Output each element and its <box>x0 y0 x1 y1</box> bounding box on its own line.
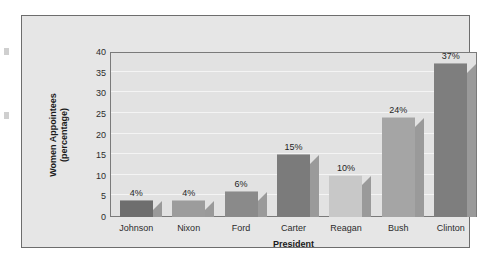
y-axis-tick-label: 5 <box>101 191 106 202</box>
bar-shadow <box>362 176 371 217</box>
bar-value-label: 4% <box>112 188 161 199</box>
bar-shadow <box>310 155 319 217</box>
bar-value-label: 15% <box>269 142 318 153</box>
y-axis-tick-label: 20 <box>96 130 106 141</box>
bar-value-label: 24% <box>374 105 423 116</box>
scan-speck <box>4 48 9 55</box>
y-axis-tick-label: 25 <box>96 109 106 120</box>
bar-clinton[interactable] <box>434 63 467 217</box>
scan-edge-artifact <box>0 30 16 150</box>
x-axis-tick-label: Carter <box>267 222 319 234</box>
y-axis-title: Women Appointees (percentage) <box>48 68 66 202</box>
bar-group[interactable]: 37% <box>434 52 467 217</box>
bar-group[interactable]: 6% <box>225 52 258 217</box>
x-axis-tick-label: Bush <box>372 222 424 234</box>
x-axis-tick-label: Nixon <box>162 222 214 234</box>
y-axis-tick-label: 35 <box>96 68 106 79</box>
bar-group[interactable]: 15% <box>277 52 310 217</box>
x-axis-tick-label: Clinton <box>425 222 477 234</box>
y-axis-tick-label: 15 <box>96 150 106 161</box>
bar-shadow <box>153 201 162 218</box>
bar-value-label: 4% <box>164 188 213 199</box>
bar-shadow <box>205 201 214 218</box>
bar-nixon[interactable] <box>172 200 205 218</box>
y-axis-title-line-1: Women Appointees <box>48 68 59 202</box>
bar-johnson[interactable] <box>120 200 153 218</box>
x-axis-title: President <box>110 239 477 249</box>
bar-bush[interactable] <box>382 117 415 217</box>
bar-value-label: 6% <box>217 179 266 190</box>
bar-value-label: 10% <box>321 163 370 174</box>
chart-figure-frame: 0510152025303540 Women Appointees (perce… <box>21 15 470 248</box>
x-axis-tick-labels: JohnsonNixonFordCarterReaganBushClinton <box>110 222 477 236</box>
bar-shadow <box>415 118 424 217</box>
bar-group[interactable]: 4% <box>172 52 205 217</box>
bars-layer: 4%4%6%15%10%24%37% <box>110 52 477 217</box>
y-axis-title-line-2: (percentage) <box>59 68 70 202</box>
bar-shadow <box>467 64 476 217</box>
bar-reagan[interactable] <box>329 175 362 217</box>
bar-carter[interactable] <box>277 154 310 217</box>
y-axis-tick-labels: 0510152025303540 <box>82 46 106 223</box>
x-axis-tick-label: Reagan <box>320 222 372 234</box>
y-axis-tick-label: 10 <box>96 171 106 182</box>
bar-group[interactable]: 10% <box>329 52 362 217</box>
bar-shadow <box>258 192 267 217</box>
bar-ford[interactable] <box>225 191 258 217</box>
bar-group[interactable]: 4% <box>120 52 153 217</box>
y-axis-tick-label: 40 <box>96 47 106 58</box>
bar-group[interactable]: 24% <box>382 52 415 217</box>
bar-value-label: 37% <box>426 51 475 62</box>
x-axis-tick-label: Ford <box>215 222 267 234</box>
scan-speck <box>4 112 9 119</box>
y-axis-tick-label: 30 <box>96 88 106 99</box>
x-axis-tick-label: Johnson <box>110 222 162 234</box>
y-axis-tick-label: 0 <box>101 212 106 223</box>
